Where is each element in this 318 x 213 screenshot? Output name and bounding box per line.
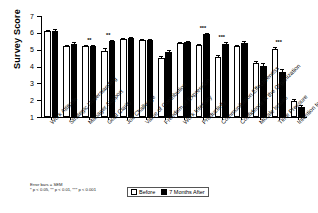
error-bar-cap: [46, 30, 50, 31]
error-bar-cap: [186, 41, 190, 42]
significance-marker: ***: [195, 26, 211, 31]
y-tick-label: 2: [24, 97, 34, 104]
error-bar-cap: [178, 42, 182, 43]
y-tick-label: 4: [24, 63, 34, 70]
significance-note: * p < 0.05, ** p < 0.01, *** p < 0.001: [30, 187, 96, 192]
error-bar-cap: [129, 37, 133, 38]
y-tick: [37, 117, 41, 118]
y-tick-label: 5: [24, 46, 34, 53]
legend-swatch-after-icon: [161, 189, 167, 195]
error-bar-cap: [103, 48, 107, 49]
error-bar-cap: [167, 50, 171, 51]
error-bar-cap: [242, 41, 246, 42]
error-bar-cap: [72, 42, 76, 43]
significance-marker: **: [81, 38, 97, 43]
significance-marker: ***: [271, 40, 287, 45]
error-bar-cap: [280, 69, 284, 70]
error-bar-cap: [91, 45, 95, 46]
error-bar-cap: [235, 45, 239, 46]
error-bar-cap: [216, 55, 220, 56]
legend-item-after: 7 Months After: [161, 189, 204, 195]
error-bar-cap: [148, 39, 152, 40]
error-bar-cap: [254, 61, 258, 62]
legend-label-before: Before: [139, 189, 155, 195]
survey-score-bar-chart: Survey Score 1234567 ************* Work …: [0, 0, 318, 213]
error-bar-cap: [205, 33, 209, 34]
error-bar-cap: [84, 45, 88, 46]
y-tick-label: 1: [24, 114, 34, 121]
error-bar-cap: [140, 39, 144, 40]
error-bar-cap: [110, 40, 114, 41]
error-bar-cap: [292, 99, 296, 100]
significance-marker: ***: [214, 35, 230, 40]
footnote: Error bars = SEM * p < 0.05, ** p < 0.01…: [30, 182, 96, 192]
error-bar-cap: [273, 47, 277, 48]
bar-after: [52, 31, 59, 117]
y-tick: [37, 50, 41, 51]
plot-area: *************: [42, 16, 307, 117]
error-bar-cap: [65, 45, 69, 46]
bar-before: [44, 31, 51, 117]
error-bar-cap: [224, 42, 228, 43]
legend-item-before: Before: [131, 189, 155, 195]
error-bar-cap: [121, 38, 125, 39]
significance-marker: **: [100, 33, 116, 38]
legend: Before 7 Months After: [127, 187, 209, 197]
y-tick: [37, 67, 41, 68]
error-bar-cap: [261, 63, 265, 64]
error-bar-cap: [53, 29, 57, 30]
y-tick: [37, 100, 41, 101]
error-bar-cap: [159, 56, 163, 57]
error-bar-cap: [197, 44, 201, 45]
y-tick-label: 3: [24, 80, 34, 87]
y-axis-title: Survey Score: [12, 3, 22, 75]
y-tick: [37, 16, 41, 17]
legend-swatch-before-icon: [131, 189, 137, 195]
y-tick: [37, 83, 41, 84]
y-tick-label: 7: [24, 13, 34, 20]
bar-after: [165, 52, 172, 117]
legend-label-after: 7 Months After: [169, 189, 204, 195]
y-tick: [37, 33, 41, 34]
y-tick-label: 6: [24, 29, 34, 36]
